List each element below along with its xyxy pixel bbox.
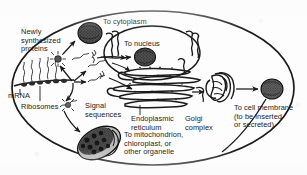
- label-mrna: mRNA: [8, 92, 30, 101]
- label-to-mitochondrion: To mitochondrion, chloroplast, or other …: [124, 131, 183, 157]
- label-to-nucleus: To nucleus: [124, 40, 160, 49]
- label-newly-synthesized-proteins: Newly synthesized proteins: [21, 28, 61, 54]
- protein-globule-cytoplasm: [78, 23, 102, 44]
- label-golgi-complex: Golgi complex: [185, 115, 213, 132]
- arrow-to-cytoplasm: [63, 41, 75, 54]
- golgi-stack: [206, 73, 234, 102]
- label-to-cell-membrane: To cell membrane (to be inserted or secr…: [234, 104, 293, 130]
- label-ribosomes: Ribosomes: [21, 103, 58, 112]
- protein-globule-secreted: [261, 79, 283, 99]
- label-to-cytoplasm: To cytoplasm: [103, 18, 147, 27]
- label-signal-sequences: Signal sequences: [85, 102, 121, 119]
- arrow-to-mitochondrion: [64, 111, 80, 132]
- figure-root: Newly synthesized proteins mRNA Ribosome…: [0, 0, 307, 175]
- nucleus-organelle: [104, 26, 200, 80]
- protein-sorting-arrows: [60, 66, 86, 101]
